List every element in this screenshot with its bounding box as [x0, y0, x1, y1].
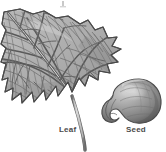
seed-label: Seed: [126, 126, 146, 134]
leaf-petiole: [72, 96, 85, 150]
leaf-illustration: [0, 9, 121, 105]
top-artifact: [60, 1, 66, 7]
seed-illustration: [102, 79, 161, 123]
leaf-label: Leaf: [59, 126, 76, 134]
botanical-figure: Leaf Seed: [0, 0, 166, 152]
